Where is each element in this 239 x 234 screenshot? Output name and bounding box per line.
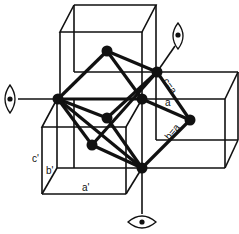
- atom: [137, 163, 148, 174]
- label-b-prime: b': [46, 165, 54, 176]
- eye-icon: [5, 85, 15, 113]
- atom: [102, 46, 113, 57]
- atom: [152, 67, 163, 78]
- lattice-figure: c=a a b=a c' b' a': [0, 0, 239, 234]
- eye-icon: [173, 23, 183, 49]
- label-a-prime: a': [82, 182, 90, 193]
- atom: [87, 140, 98, 151]
- atom: [102, 113, 113, 124]
- atom: [185, 115, 196, 126]
- eye-icon: [128, 216, 156, 228]
- crystal-diagram: c=a a b=a c' b' a': [0, 0, 239, 234]
- atomic-bonds: [58, 51, 190, 168]
- label-c-prime: c': [32, 153, 39, 164]
- label-b-eq-a: b=a: [162, 121, 182, 141]
- atom: [53, 94, 64, 105]
- label-a: a: [165, 97, 171, 108]
- atom: [137, 94, 148, 105]
